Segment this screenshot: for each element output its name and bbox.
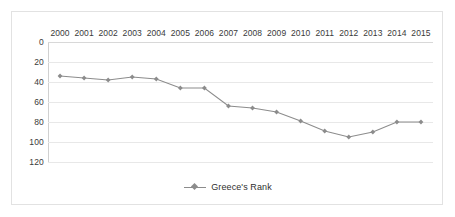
y-axis-tick-label: 80: [34, 117, 44, 127]
chart-frame: 2000200120022003200420052006200720082009…: [11, 11, 443, 205]
data-point-marker: [58, 74, 63, 79]
x-axis-tick-label: 2009: [267, 28, 286, 38]
y-axis-tick-label: 0: [39, 37, 44, 47]
legend-marker-icon: [184, 183, 206, 192]
x-axis-tick-label: 2000: [50, 28, 69, 38]
x-axis-tick-label: 2010: [291, 28, 310, 38]
chart-canvas: 2000200120022003200420052006200720082009…: [12, 12, 444, 206]
series-line: [60, 76, 421, 137]
y-axis-tick-label: 60: [34, 97, 44, 107]
chart-legend: Greece's Rank: [12, 177, 444, 197]
data-point-marker: [395, 120, 400, 125]
gridline: [48, 162, 433, 163]
x-axis-tick-label: 2006: [195, 28, 214, 38]
data-point-marker: [82, 76, 87, 81]
data-point-marker: [370, 130, 375, 135]
x-axis-tick-label: 2007: [219, 28, 238, 38]
x-axis-tick-label: 2004: [147, 28, 166, 38]
x-axis-tick-label: 2002: [99, 28, 118, 38]
x-axis-tick-labels: 2000200120022003200420052006200720082009…: [48, 28, 433, 41]
x-axis-tick-label: 2008: [243, 28, 262, 38]
y-axis-tick-label: 120: [29, 157, 44, 167]
y-axis-tick-label: 100: [29, 137, 44, 147]
x-axis-tick-label: 2014: [387, 28, 406, 38]
data-point-marker: [178, 86, 183, 91]
x-axis-tick-label: 2011: [315, 28, 334, 38]
data-point-marker: [419, 120, 424, 125]
legend-label: Greece's Rank: [211, 182, 272, 192]
data-point-marker: [154, 77, 159, 82]
data-point-marker: [106, 78, 111, 83]
x-axis-tick-label: 2015: [411, 28, 430, 38]
data-point-marker: [298, 119, 303, 124]
x-axis-tick-label: 2003: [123, 28, 142, 38]
x-axis-tick-label: 2013: [363, 28, 382, 38]
y-axis-tick-label: 40: [34, 77, 44, 87]
x-axis-tick-label: 2005: [171, 28, 190, 38]
data-point-marker: [346, 135, 351, 140]
data-point-marker: [274, 110, 279, 115]
plot-area: 020406080100120: [48, 42, 433, 162]
x-axis-tick-label: 2012: [339, 28, 358, 38]
x-axis-tick-label: 2001: [74, 28, 93, 38]
data-point-marker: [130, 75, 135, 80]
data-point-marker: [322, 129, 327, 134]
data-point-marker: [250, 106, 255, 111]
y-axis-tick-label: 20: [34, 57, 44, 67]
series-greeces-rank: [48, 42, 433, 162]
